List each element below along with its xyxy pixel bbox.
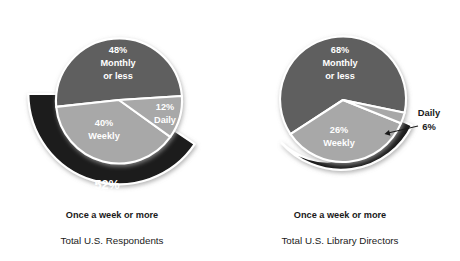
pie-left-label-monthly-pct: 48%	[109, 45, 127, 55]
highlight-arc-52-label: 52%	[94, 178, 119, 192]
pie-right-label-monthly-line1: Monthly	[322, 58, 358, 68]
charts-svg: 52% 48% Monthly or less 40% Weekly 12% D…	[0, 0, 460, 261]
pie-left-label-daily-line1: Daily	[154, 115, 177, 125]
chart-right-subtitle: Once a week or more	[294, 210, 386, 220]
chart-left-total-us-respondents: 52% 48% Monthly or less 40% Weekly 12% D…	[28, 38, 194, 245]
pie-left-label-monthly-line1: Monthly	[100, 58, 136, 68]
highlight-arc-32-label: 32%	[327, 177, 352, 191]
pie-left-label-weekly-pct: 40%	[95, 118, 113, 128]
pie-right-label-monthly-line2: or less	[325, 71, 355, 81]
pie-left-label-daily-pct: 12%	[156, 102, 174, 112]
pie-right-label-monthly-pct: 68%	[331, 45, 349, 55]
pie-right-label-weekly-line1: Weekly	[323, 138, 355, 148]
pie-right-callout-name: Daily	[418, 107, 441, 118]
chart-left-subtitle: Once a week or more	[66, 210, 158, 220]
pie-right-callout-value: 6%	[422, 121, 436, 132]
chart-right-title: Total U.S. Library Directors	[281, 235, 398, 246]
pie-left	[56, 38, 182, 163]
chart-left-title: Total U.S. Respondents	[61, 235, 164, 246]
pie-left-label-monthly-line2: or less	[103, 71, 133, 81]
pie-chart-figure: 52% 48% Monthly or less 40% Weekly 12% D…	[0, 0, 460, 261]
chart-right-total-us-library-directors: 32% 68% Monthly or less 26% Weekly	[280, 36, 441, 245]
pie-left-label-weekly-line1: Weekly	[88, 131, 120, 141]
pie-right-label-weekly-pct: 26%	[330, 125, 348, 135]
